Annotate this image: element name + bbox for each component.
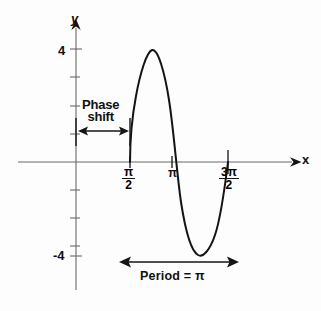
y-tick-label-negative-4: -4 xyxy=(53,249,65,262)
x-tick-label-pi-over-2-denominator: 2 xyxy=(122,179,135,191)
sine-curve-figure: y x 4 -4 Phase shift Period = π π 2 π 3π… xyxy=(0,0,321,311)
phase-shift-label: Phase shift xyxy=(82,99,119,123)
x-tick-label-pi-over-2: π 2 xyxy=(122,166,135,191)
x-tick-label-3pi-over-2-denominator: 2 xyxy=(219,179,239,191)
x-tick-label-3pi-over-2: 3π 2 xyxy=(219,166,239,191)
period-arrow xyxy=(119,257,239,268)
y-axis-label: y xyxy=(71,12,78,25)
sine-curve xyxy=(130,50,228,256)
x-axis-label: x xyxy=(302,153,309,166)
plot-canvas xyxy=(0,0,321,311)
period-label: Period = π xyxy=(140,270,205,283)
y-tick-label-4: 4 xyxy=(58,44,65,57)
x-tick-label-pi: π xyxy=(168,166,177,180)
phase-shift-label-line2: shift xyxy=(82,111,119,123)
